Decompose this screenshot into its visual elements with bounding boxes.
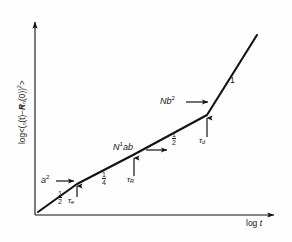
nb-squared-base: Nb [160,96,172,106]
msd-curve-path [38,35,257,212]
slope-label-regime-4: 1 [230,76,235,85]
slope-2-denominator: 4 [102,178,106,186]
slope-label-regime-1: 1 2 [58,190,62,205]
tau-R-sub: R [130,178,134,184]
reptation-msd-figure: log<(n(t)−Rn(0))2> log t a2 N1ab Nb2 τe … [0,0,292,242]
annotation-a-squared: a2 [41,176,49,185]
label-tau-R: τR [127,176,134,184]
slope-1-denominator: 2 [58,197,62,205]
y-axis-var-2: R [18,104,27,110]
slope-label-regime-3: 1 2 [172,131,176,146]
n-half-ab-tail: ab [123,142,133,152]
x-axis-label: log t [246,219,262,228]
msd-curve [38,35,257,212]
slope-label-regime-2: 1 4 [102,171,106,186]
tau-d-sub: d [202,139,205,145]
annotation-nb-squared: Nb2 [160,97,175,106]
crossover-arrows [77,118,207,197]
x-axis-label-var: t [260,218,262,228]
plot-canvas [0,0,292,242]
annotation-n-half-ab: N1ab [113,143,133,152]
slope-1-numerator: 1 [58,190,62,197]
nb-squared-exp: 2 [172,94,175,101]
slope-3-denominator: 2 [172,138,176,146]
axis-lines [35,22,274,215]
y-axis-sub-1: n [21,122,27,125]
y-axis-arg-1: (t) [18,115,27,123]
label-tau-d: τd [199,137,205,145]
y-axis-label: log<(n(t)−Rn(0))2> [19,37,27,187]
y-axis-arg-2: (0) [18,91,27,101]
y-axis-sub-2: n [21,101,27,104]
slope-3-numerator: 1 [172,131,176,138]
y-axis-minus: − [18,110,27,115]
a-squared-exp: 2 [46,173,49,180]
label-tau-e: τe [68,197,74,205]
y-axis-exponent: 2 [16,85,22,88]
tau-e-sub: e [71,199,74,205]
slope-2-numerator: 1 [102,171,106,178]
x-axis-label-log: log [246,218,257,228]
